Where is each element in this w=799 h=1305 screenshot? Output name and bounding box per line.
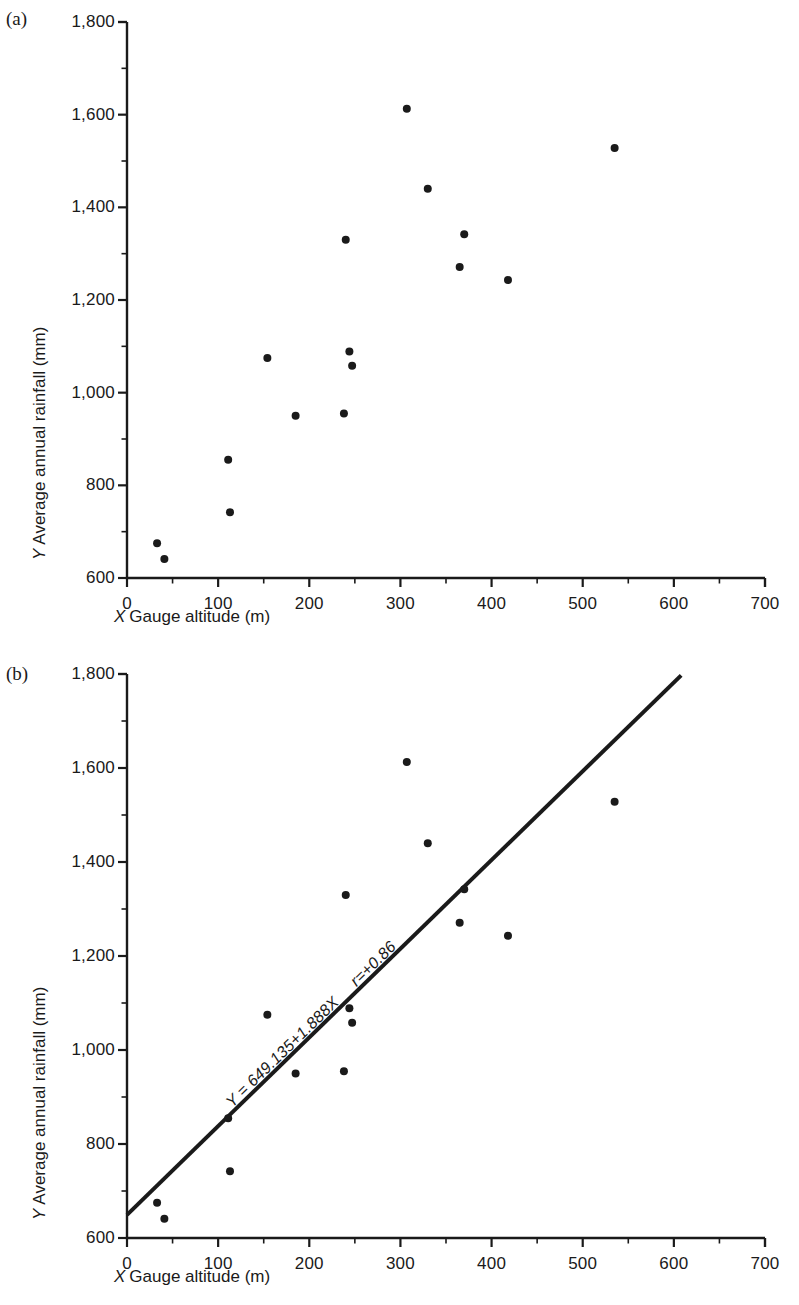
data-point [160,1215,168,1223]
y-axis-tick-label: 1,800 [41,664,115,684]
x-axis-title-text: Gauge altitude (m) [129,1267,270,1286]
x-axis-tick-label: 400 [477,1254,506,1274]
panel-b-plot-area [0,645,799,1305]
x-axis-tick-label: 300 [386,594,415,614]
data-point [292,412,300,420]
y-axis-tick-label: 1,600 [41,105,115,125]
y-axis-title-text: Average annual rainfall (mm) [30,987,49,1205]
data-point [460,230,468,238]
x-axis-tick-label: 700 [751,1254,780,1274]
data-point [160,555,168,563]
y-axis-tick-label: 1,400 [41,852,115,872]
x-axis-tick-label: 400 [477,594,506,614]
panel-b: (b) 6008001,0001,2001,4001,6001,80001002… [0,645,799,1305]
data-point [611,144,619,152]
x-axis-tick-label: 500 [568,594,597,614]
panel-a-plot-area [0,0,799,645]
data-point [348,362,356,370]
data-point [263,1011,271,1019]
data-point [424,839,432,847]
data-point [226,508,234,516]
y-axis-tick-label: 1,200 [41,290,115,310]
y-axis-tick-label: 1,000 [41,1040,115,1060]
data-point [224,1114,232,1122]
panel-a: (a) 6008001,0001,2001,4001,6001,80001002… [0,0,799,645]
data-point [342,891,350,899]
y-axis-title-text: Average annual rainfall (mm) [30,327,49,545]
data-point [504,276,512,284]
x-axis-tick-label: 600 [659,1254,688,1274]
x-axis-tick-label: 500 [568,1254,597,1274]
y-axis-tick-label: 1,600 [41,758,115,778]
x-axis-tick-label: 200 [295,594,324,614]
y-axis-tick-label: 800 [41,475,115,495]
y-axis-tick-label: 1,800 [41,12,115,32]
data-point [153,539,161,547]
y-axis-tick-label: 600 [41,1228,115,1248]
data-point [345,1004,353,1012]
y-axis-variable-symbol: Y [30,545,49,560]
data-point [456,919,464,927]
panel-b-x-axis-title: XGauge altitude (m) [114,1267,270,1287]
panel-a-y-axis-title: YAverage annual rainfall (mm) [30,327,50,560]
data-point [403,758,411,766]
x-axis-tick-label: 600 [659,594,688,614]
data-point [342,236,350,244]
y-axis-tick-label: 800 [41,1134,115,1154]
y-axis-tick-label: 1,200 [41,946,115,966]
data-point [226,1167,234,1175]
data-point [153,1199,161,1207]
data-point [504,932,512,940]
y-axis-tick-label: 1,400 [41,197,115,217]
y-axis-tick-label: 1,000 [41,383,115,403]
data-point [460,885,468,893]
x-axis-variable-symbol: X [114,607,129,626]
figure-container: (a) 6008001,0001,2001,4001,6001,80001002… [0,0,799,1305]
data-point [403,105,411,113]
y-axis-tick-label: 600 [41,568,115,588]
data-point [348,1019,356,1027]
y-axis-variable-symbol: Y [30,1205,49,1220]
panel-b-y-axis-title: YAverage annual rainfall (mm) [30,987,50,1220]
x-axis-tick-label: 200 [295,1254,324,1274]
x-axis-tick-label: 700 [751,594,780,614]
data-point [611,798,619,806]
x-axis-variable-symbol: X [114,1267,129,1286]
panel-a-x-axis-title: XGauge altitude (m) [114,607,270,627]
data-point [456,263,464,271]
data-point [340,1067,348,1075]
data-point [424,185,432,193]
data-point [340,410,348,418]
data-point [224,456,232,464]
data-point [292,1070,300,1078]
x-axis-tick-label: 300 [386,1254,415,1274]
data-point [263,354,271,362]
data-point [345,347,353,355]
x-axis-title-text: Gauge altitude (m) [129,607,270,626]
